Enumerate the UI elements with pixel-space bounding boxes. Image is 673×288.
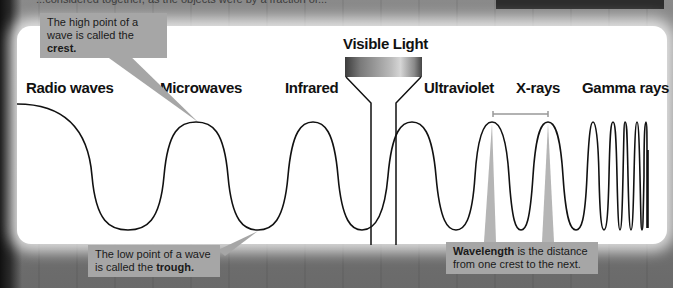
wavelength-pointer-2: [542, 123, 554, 242]
trough-callout-bold: trough.: [156, 261, 194, 273]
wavelength-bracket: [493, 111, 548, 117]
em-wave: [17, 104, 648, 230]
wavelength-pointer-1: [484, 123, 496, 242]
wavelength-callout: Wavelength is the distance from one cres…: [446, 242, 598, 274]
wavelength-callout-bold: Wavelength: [453, 245, 514, 257]
crest-pointer: [95, 48, 198, 122]
visible-funnel: [346, 77, 421, 245]
trough-callout: The low point of a wave is called the tr…: [88, 245, 220, 277]
trough-pointer: [218, 231, 258, 256]
